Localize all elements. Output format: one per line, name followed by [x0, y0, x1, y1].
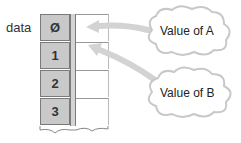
arrow-a-head-icon [86, 20, 99, 33]
torn-edge [40, 126, 108, 133]
arrow-a [98, 26, 148, 31]
callout-a-text: Value of A [160, 24, 214, 38]
arrow-b [100, 50, 155, 80]
callout-b-text: Value of B [160, 86, 214, 100]
diagram-graphics [0, 0, 241, 143]
